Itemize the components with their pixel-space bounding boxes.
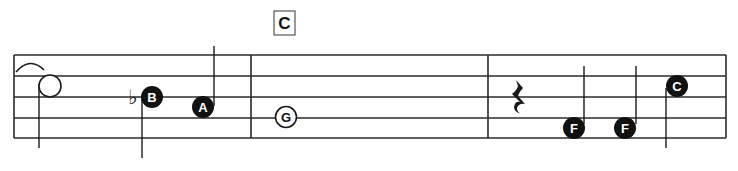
svg-text:B: B — [147, 90, 156, 105]
svg-text:F: F — [570, 121, 578, 136]
measure-1: ♭ B A — [16, 46, 214, 158]
tie-icon — [16, 63, 44, 72]
svg-text:G: G — [281, 110, 291, 125]
note-f-1: F — [563, 117, 585, 139]
music-staff: C ♭ B A G — [0, 0, 738, 171]
flat-icon: ♭ — [128, 85, 137, 109]
note-a: A — [192, 96, 214, 118]
svg-text:A: A — [198, 100, 208, 115]
measure-2: G — [276, 107, 297, 128]
note-b: B — [141, 86, 163, 108]
note-f-2: F — [614, 117, 636, 139]
note-g: G — [276, 107, 297, 128]
measure-3: F F C — [512, 66, 688, 148]
chord-symbol-label: C — [278, 14, 290, 33]
svg-text:F: F — [621, 121, 629, 136]
half-note-icon — [39, 75, 61, 97]
note-c: C — [666, 75, 688, 97]
svg-text:C: C — [672, 79, 682, 94]
chord-symbol: C — [274, 11, 295, 35]
